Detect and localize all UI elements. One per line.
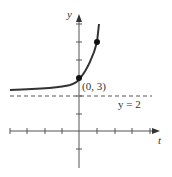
asymptote-label: y = 2	[118, 98, 141, 110]
t-axis-label: t	[158, 134, 161, 146]
point-1-5	[94, 39, 100, 45]
point-label: (0, 3)	[82, 80, 106, 92]
y-axis-label: y	[67, 8, 72, 20]
y-axis-arrow	[76, 14, 82, 22]
